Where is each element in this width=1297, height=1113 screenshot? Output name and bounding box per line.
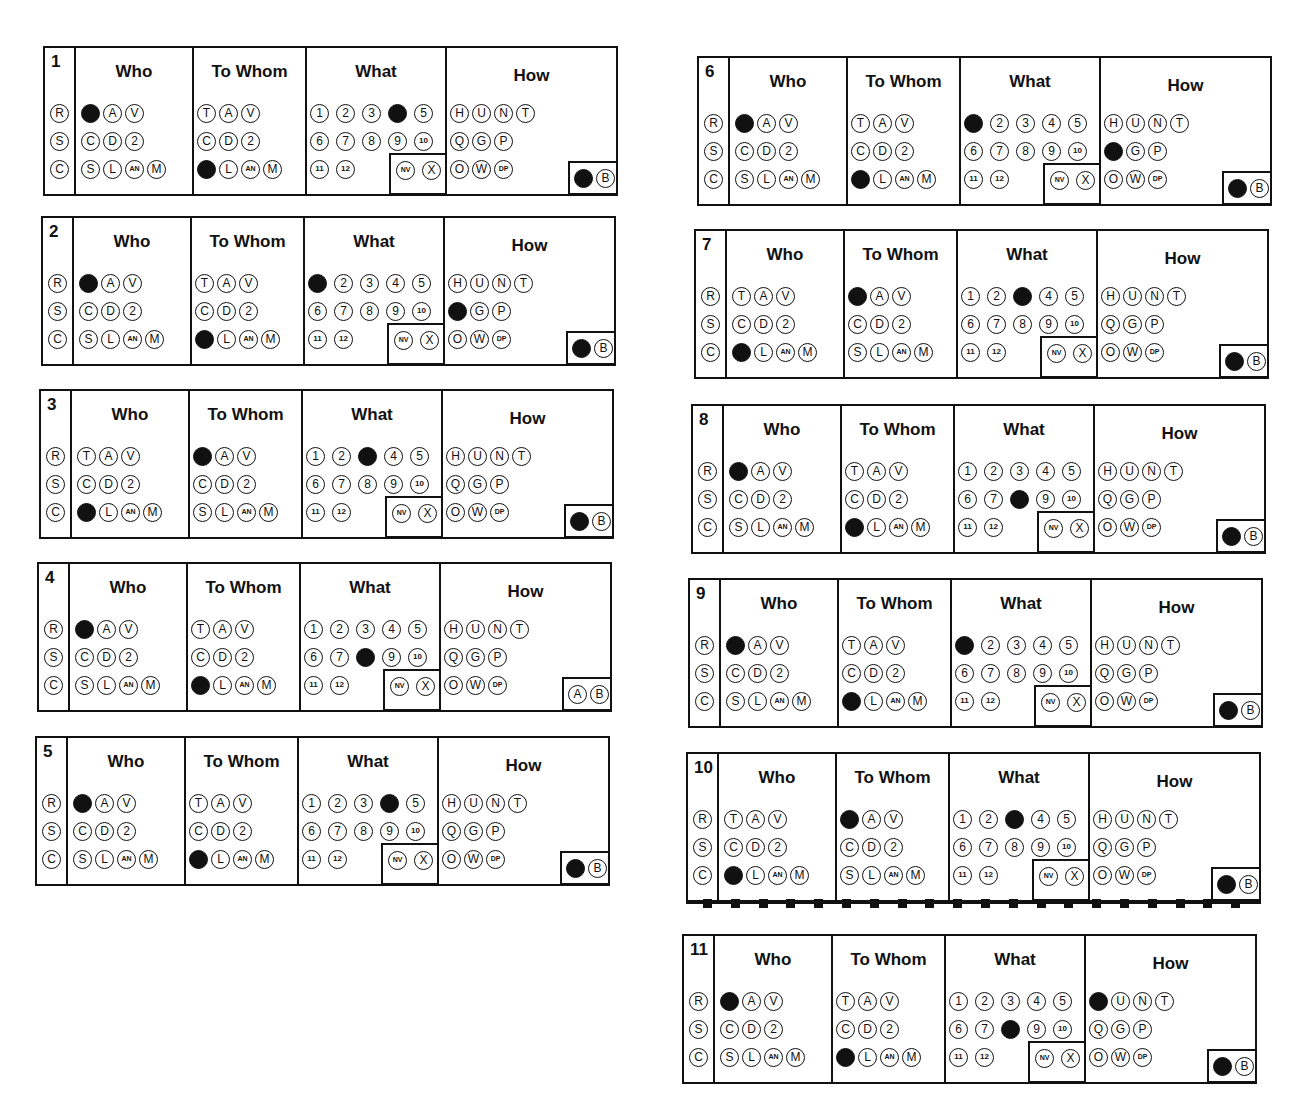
- who-bubble-a[interactable]: A: [751, 462, 770, 481]
- prefix-bubble-c[interactable]: C: [704, 170, 723, 189]
- how-bubble-n[interactable]: N: [1137, 810, 1156, 829]
- who-bubble-t[interactable]: T: [729, 462, 748, 481]
- who-bubble-an[interactable]: AN: [119, 676, 138, 695]
- to-whom-bubble-v[interactable]: V: [895, 114, 914, 133]
- what-bubble-nv[interactable]: NV: [1044, 519, 1063, 538]
- what-bubble-x[interactable]: X: [1061, 1049, 1080, 1068]
- what-bubble-5[interactable]: 5: [1068, 114, 1087, 133]
- who-bubble-c[interactable]: C: [735, 142, 754, 161]
- what-bubble-8[interactable]: 8: [1001, 1020, 1020, 1039]
- what-bubble-11[interactable]: 11: [955, 692, 974, 711]
- who-bubble-v[interactable]: V: [776, 287, 795, 306]
- what-bubble-x[interactable]: X: [1065, 867, 1084, 886]
- how-bubble-w[interactable]: W: [1115, 866, 1134, 885]
- to-whom-bubble-v[interactable]: V: [889, 462, 908, 481]
- what-bubble-10[interactable]: 10: [1053, 1020, 1072, 1039]
- to-whom-bubble-l[interactable]: L: [867, 518, 886, 537]
- who-bubble-v[interactable]: V: [779, 114, 798, 133]
- to-whom-bubble-c[interactable]: C: [845, 490, 864, 509]
- what-bubble-5[interactable]: 5: [1062, 462, 1081, 481]
- what-bubble-8[interactable]: 8: [1010, 490, 1029, 509]
- what-bubble-x[interactable]: X: [416, 677, 435, 696]
- ab-bubble-a[interactable]: A: [566, 859, 585, 878]
- to-whom-bubble-m[interactable]: M: [908, 692, 927, 711]
- prefix-bubble-c[interactable]: C: [46, 503, 65, 522]
- what-bubble-4[interactable]: 4: [1036, 462, 1055, 481]
- what-bubble-10[interactable]: 10: [1068, 142, 1087, 161]
- how-bubble-u[interactable]: U: [466, 620, 485, 639]
- how-bubble-u[interactable]: U: [1115, 810, 1134, 829]
- how-bubble-g[interactable]: G: [1120, 490, 1139, 509]
- what-bubble-8[interactable]: 8: [356, 648, 375, 667]
- what-bubble-1[interactable]: 1: [302, 794, 321, 813]
- how-bubble-n[interactable]: N: [1133, 992, 1152, 1011]
- what-bubble-6[interactable]: 6: [310, 132, 329, 151]
- who-bubble-v[interactable]: V: [768, 810, 787, 829]
- how-bubble-t[interactable]: T: [1159, 810, 1178, 829]
- what-bubble-4[interactable]: 4: [1027, 992, 1046, 1011]
- what-bubble-5[interactable]: 5: [1065, 287, 1084, 306]
- ab-bubble-b[interactable]: B: [592, 512, 611, 531]
- prefix-bubble-c[interactable]: C: [48, 330, 67, 349]
- who-bubble-m[interactable]: M: [143, 503, 162, 522]
- to-whom-bubble-an[interactable]: AN: [233, 850, 252, 869]
- what-bubble-7[interactable]: 7: [990, 142, 1009, 161]
- to-whom-bubble-d[interactable]: D: [864, 664, 883, 683]
- who-bubble-2[interactable]: 2: [121, 475, 140, 494]
- ab-bubble-a[interactable]: A: [574, 169, 593, 188]
- what-bubble-x[interactable]: X: [422, 161, 441, 180]
- to-whom-bubble-v[interactable]: V: [235, 620, 254, 639]
- who-bubble-t[interactable]: T: [735, 114, 754, 133]
- to-whom-bubble-v[interactable]: V: [892, 287, 911, 306]
- what-bubble-7[interactable]: 7: [328, 822, 347, 841]
- what-bubble-x[interactable]: X: [414, 851, 433, 870]
- what-bubble-1[interactable]: 1: [310, 104, 329, 123]
- ab-bubble-a[interactable]: A: [1217, 875, 1236, 894]
- who-bubble-a[interactable]: A: [757, 114, 776, 133]
- who-bubble-s[interactable]: S: [729, 518, 748, 537]
- to-whom-bubble-d[interactable]: D: [217, 302, 236, 321]
- to-whom-bubble-l[interactable]: L: [211, 850, 230, 869]
- to-whom-bubble-m[interactable]: M: [255, 850, 274, 869]
- to-whom-bubble-t[interactable]: T: [193, 447, 212, 466]
- what-bubble-7[interactable]: 7: [336, 132, 355, 151]
- what-bubble-5[interactable]: 5: [410, 447, 429, 466]
- to-whom-bubble-m[interactable]: M: [259, 503, 278, 522]
- to-whom-bubble-an[interactable]: AN: [235, 676, 254, 695]
- what-bubble-6[interactable]: 6: [308, 302, 327, 321]
- prefix-bubble-r[interactable]: R: [689, 992, 708, 1011]
- to-whom-bubble-v[interactable]: V: [237, 447, 256, 466]
- to-whom-bubble-a[interactable]: A: [870, 287, 889, 306]
- what-bubble-3[interactable]: 3: [1007, 636, 1026, 655]
- what-bubble-1[interactable]: 1: [949, 992, 968, 1011]
- how-bubble-p[interactable]: P: [1145, 315, 1164, 334]
- who-bubble-d[interactable]: D: [95, 822, 114, 841]
- what-bubble-12[interactable]: 12: [981, 692, 1000, 711]
- who-bubble-a[interactable]: A: [95, 794, 114, 813]
- what-bubble-10[interactable]: 10: [406, 822, 425, 841]
- to-whom-bubble-s[interactable]: S: [197, 160, 216, 179]
- how-bubble-g[interactable]: G: [1111, 1020, 1130, 1039]
- how-bubble-t[interactable]: T: [1170, 114, 1189, 133]
- to-whom-bubble-an[interactable]: AN: [892, 343, 911, 362]
- who-bubble-s[interactable]: S: [73, 850, 92, 869]
- prefix-bubble-s[interactable]: S: [698, 490, 717, 509]
- what-bubble-2[interactable]: 2: [979, 810, 998, 829]
- to-whom-bubble-c[interactable]: C: [193, 475, 212, 494]
- how-bubble-h[interactable]: H: [448, 274, 467, 293]
- prefix-bubble-r[interactable]: R: [44, 620, 63, 639]
- prefix-bubble-r[interactable]: R: [48, 274, 67, 293]
- prefix-bubble-r[interactable]: R: [42, 794, 61, 813]
- ab-bubble-b[interactable]: B: [594, 339, 613, 358]
- to-whom-bubble-s[interactable]: S: [189, 850, 208, 869]
- what-bubble-4[interactable]: 4: [386, 274, 405, 293]
- what-bubble-3[interactable]: 3: [358, 447, 377, 466]
- what-bubble-9[interactable]: 9: [380, 822, 399, 841]
- what-bubble-6[interactable]: 6: [964, 142, 983, 161]
- who-bubble-t[interactable]: T: [732, 287, 751, 306]
- how-bubble-o[interactable]: O: [446, 503, 465, 522]
- to-whom-bubble-an[interactable]: AN: [889, 518, 908, 537]
- to-whom-bubble-an[interactable]: AN: [880, 1048, 899, 1067]
- who-bubble-m[interactable]: M: [145, 330, 164, 349]
- what-bubble-7[interactable]: 7: [332, 475, 351, 494]
